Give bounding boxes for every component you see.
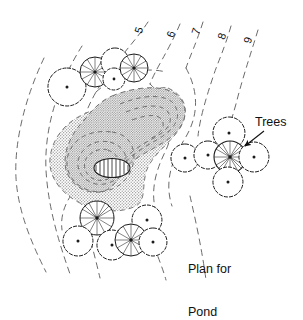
tree-deciduous (239, 142, 269, 172)
contour-line-9 (229, 30, 258, 130)
plan-caption-line-2: Pond (188, 305, 231, 319)
plan-caption-line-1: Plan for (188, 262, 231, 276)
pond-island (94, 159, 130, 178)
tree-deciduous (139, 228, 167, 256)
tree-deciduous (63, 226, 93, 256)
contour-line-outer-left (16, 58, 46, 272)
tree-deciduous (213, 167, 243, 197)
trees-label: Trees (255, 115, 287, 129)
pond (50, 88, 186, 211)
plan-caption: Plan for Pond (188, 233, 231, 320)
tree-conifer (120, 54, 148, 82)
